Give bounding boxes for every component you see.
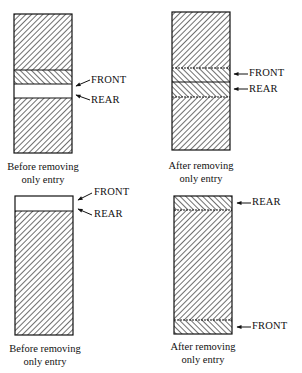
front-arrow-icon: [76, 80, 90, 86]
rear-label: REAR: [94, 208, 123, 219]
front-arrow-icon: [78, 193, 92, 200]
queue-array-bottom-left: [15, 193, 92, 335]
queue-array-bottom-right: [174, 196, 251, 334]
front-label: FRONT: [94, 186, 129, 197]
caption-top-right: After removing only entry: [146, 159, 256, 185]
front-label: FRONT: [249, 67, 284, 78]
caption-top-left: Before removing only entry: [0, 160, 98, 186]
caption-line: Before removing: [0, 160, 98, 173]
caption-line: Before removing: [0, 342, 100, 355]
caption-bottom-left: Before removing only entry: [0, 342, 100, 368]
caption-line: only entry: [0, 355, 100, 368]
rear-label: REAR: [252, 196, 281, 207]
queue-diagram: [0, 0, 302, 373]
queue-array-top-right: [172, 12, 248, 150]
rear-arrow-icon: [76, 95, 90, 100]
front-label: FRONT: [252, 320, 287, 331]
rear-arrow-icon: [78, 209, 92, 215]
caption-bottom-right: After removing only entry: [148, 340, 258, 366]
caption-line: After removing: [148, 340, 258, 353]
caption-line: only entry: [0, 173, 98, 186]
caption-line: only entry: [146, 172, 256, 185]
queue-array-top-left: [14, 14, 90, 153]
rear-label: REAR: [91, 94, 120, 105]
front-label: FRONT: [91, 74, 126, 85]
rear-label: REAR: [249, 83, 278, 94]
caption-line: After removing: [146, 159, 256, 172]
caption-line: only entry: [148, 353, 258, 366]
